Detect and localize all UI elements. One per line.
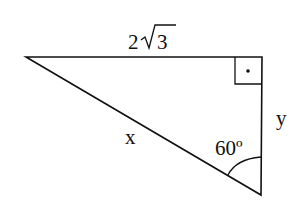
hypotenuse-label: x xyxy=(125,125,136,149)
right-side-label: y xyxy=(276,106,287,130)
triangle xyxy=(26,57,262,195)
top-side-label-radicand: 3 xyxy=(157,30,168,54)
triangle-diagram: 2 3 x y 60º xyxy=(0,0,300,205)
angle-label: 60º xyxy=(215,136,243,160)
top-side-label-coef: 2 xyxy=(128,30,139,54)
right-angle-dot xyxy=(246,69,250,73)
